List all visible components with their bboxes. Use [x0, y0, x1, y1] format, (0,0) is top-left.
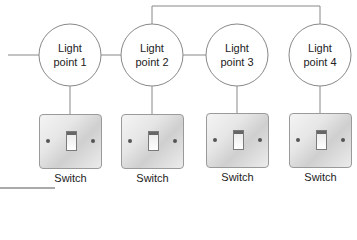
switch-4-icon: [289, 113, 352, 168]
light-point-4-line1: Light: [289, 41, 351, 55]
rocker-icon: [316, 130, 327, 150]
switch-1-icon: [39, 114, 102, 169]
switch-3-icon: [206, 113, 269, 168]
rocker-icon: [233, 130, 244, 150]
switch-2-icon: [121, 114, 184, 169]
light-point-4-line2: point 4: [289, 55, 351, 69]
light-point-4: Light point 4: [289, 41, 351, 69]
switch-2-label: Switch: [121, 172, 184, 184]
switch-3-label: Switch: [206, 171, 269, 183]
light-point-2: Light point 2: [121, 41, 183, 69]
screw-icon: [296, 138, 300, 142]
switch-1-label: Switch: [39, 172, 102, 184]
switch-4-label: Switch: [289, 171, 352, 183]
light-point-2-line1: Light: [121, 41, 183, 55]
light-point-3: Light point 3: [206, 41, 268, 69]
light-point-1: Light point 1: [39, 41, 101, 69]
light-point-1-line1: Light: [39, 41, 101, 55]
rocker-icon: [66, 131, 77, 151]
screw-icon: [91, 139, 95, 143]
light-point-3-line1: Light: [206, 41, 268, 55]
light-point-3-line2: point 3: [206, 55, 268, 69]
screw-icon: [173, 139, 177, 143]
screw-icon: [128, 139, 132, 143]
screw-icon: [341, 138, 345, 142]
light-point-1-line2: point 1: [39, 55, 101, 69]
screw-icon: [213, 138, 217, 142]
light-point-2-line2: point 2: [121, 55, 183, 69]
screw-icon: [258, 138, 262, 142]
screw-icon: [46, 139, 50, 143]
rocker-icon: [148, 131, 159, 151]
